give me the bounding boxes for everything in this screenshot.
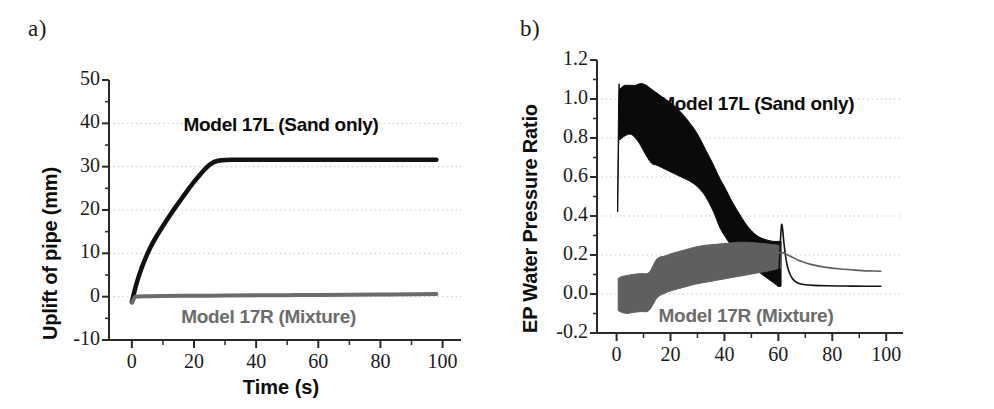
panel-b: b) -0.20.00.20.40.60.81.01.2020406080100… (497, 0, 994, 409)
x-tick-label: 40 (226, 350, 286, 373)
figure-container: a) -1001020304050020406080100Model 17L (… (0, 0, 994, 409)
x-tick-label: 0 (587, 343, 647, 366)
x-tick-label: 40 (694, 343, 754, 366)
x-tick-label: 60 (748, 343, 808, 366)
x-tick-label: 60 (288, 350, 348, 373)
y-axis-title: Uplift of pipe (mm) (39, 167, 62, 340)
x-tick-label: 20 (164, 350, 224, 373)
x-axis-title: Time (s) (243, 376, 319, 399)
y-tick-label: 1.2 (532, 47, 588, 70)
series-annotation: Model 17L (Sand only) (659, 93, 854, 115)
x-tick-label: 80 (350, 350, 410, 373)
y-tick-label: 50 (44, 67, 100, 90)
panel-a: a) -1001020304050020406080100Model 17L (… (0, 0, 497, 409)
x-tick-label: 0 (102, 350, 162, 373)
x-tick-label: 20 (641, 343, 701, 366)
x-tick-label: 100 (856, 343, 916, 366)
series-annotation: Model 17L (Sand only) (184, 114, 379, 136)
x-tick-label: 80 (802, 343, 862, 366)
y-tick-label: 40 (44, 110, 100, 133)
y-axis-title: EP Water Pressure Ratio (519, 104, 542, 333)
series-annotation: Model 17R (Mixture) (659, 305, 834, 327)
series-annotation: Model 17R (Mixture) (181, 306, 356, 328)
x-tick-label: 100 (413, 350, 473, 373)
